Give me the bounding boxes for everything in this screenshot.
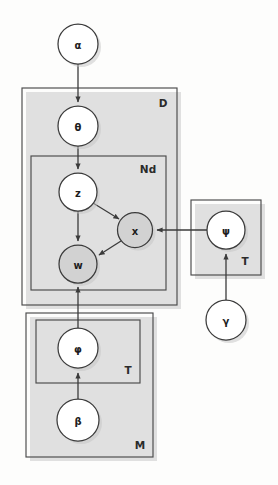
node-gamma[interactable]: γ	[206, 300, 249, 343]
plate-d-label: D	[159, 97, 168, 109]
node-alpha-label: α	[75, 40, 82, 51]
node-z-label: z	[75, 188, 81, 199]
node-w-label: w	[73, 260, 82, 271]
plate-diagram-canvas: D Nd T M T	[0, 0, 278, 485]
plate-t-phi-label: T	[124, 364, 132, 376]
node-theta-label: θ	[75, 122, 82, 133]
plate-m-label: M	[135, 439, 145, 451]
plate-nd-label: Nd	[140, 163, 156, 175]
node-gamma-label: γ	[223, 316, 230, 327]
node-x-label: x	[132, 226, 139, 237]
plate-t-psi-label: T	[241, 255, 249, 267]
node-beta-label: β	[74, 416, 81, 427]
graphical-model-figure: D Nd T M T	[0, 0, 278, 485]
node-phi-label: φ	[74, 344, 82, 355]
node-psi-label: ψ	[222, 226, 230, 237]
node-alpha[interactable]: α	[58, 24, 101, 67]
